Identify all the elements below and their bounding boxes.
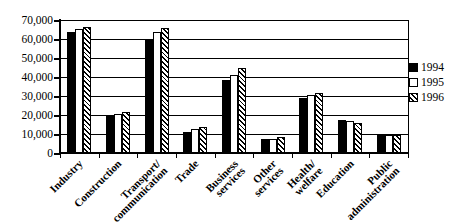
x-axis-tick (176, 154, 177, 158)
legend-label-1996: 1996 (421, 92, 444, 103)
y-axis-tick-label: 30,000 (0, 90, 53, 102)
bar-1995 (75, 29, 83, 153)
x-axis-tick (99, 154, 100, 158)
bar-1995 (385, 135, 393, 153)
bar-1995 (153, 32, 161, 153)
bar-1996 (83, 27, 91, 153)
bar-1996 (238, 68, 246, 153)
x-axis-category-label: Industry (48, 158, 84, 194)
bar-1996 (277, 137, 285, 153)
gridline (60, 39, 408, 40)
bar-1994 (145, 39, 153, 153)
x-axis-tick (331, 154, 332, 158)
x-axis-category-label: Education (314, 158, 355, 199)
y-axis-tick-label: 40,000 (0, 71, 53, 83)
y-axis-line (59, 19, 61, 154)
bar-1994 (338, 120, 346, 153)
bar-1994 (261, 139, 269, 153)
x-axis-category-label: Businessservices (203, 158, 246, 201)
legend-swatch-1994-icon (409, 63, 418, 72)
x-axis-tick (369, 154, 370, 158)
bar-1996 (122, 112, 130, 153)
legend-label-1994: 1994 (421, 62, 444, 73)
x-axis-tick (408, 154, 409, 158)
bar-1995 (307, 95, 315, 153)
bar-1996 (199, 127, 207, 153)
bar-chart: 010,00020,00030,00040,00050,00060,00070,… (0, 0, 460, 222)
y-axis-tick-label: 0 (0, 147, 53, 159)
bar-1994 (67, 32, 75, 153)
bar-1996 (393, 135, 401, 153)
x-axis-tick (137, 154, 138, 158)
bar-1996 (354, 123, 362, 153)
y-axis-tick-label: 50,000 (0, 52, 53, 64)
bar-1994 (299, 98, 307, 153)
legend-label-1995: 1995 (421, 77, 444, 88)
legend-item-1996: 1996 (409, 92, 444, 103)
gridline (60, 58, 408, 59)
bar-1996 (315, 93, 323, 153)
gridline (60, 20, 408, 21)
x-axis-category-label: Trade (174, 158, 201, 185)
x-axis-category-label: Otherservices (245, 158, 285, 198)
legend-swatch-1996-icon (409, 93, 418, 102)
bar-1994 (106, 116, 114, 153)
x-axis-tick (60, 154, 61, 158)
bar-1995 (269, 139, 277, 153)
legend-item-1994: 1994 (409, 62, 444, 73)
bar-1995 (114, 114, 122, 153)
x-axis-tick (215, 154, 216, 158)
y-axis-tick-label: 10,000 (0, 128, 53, 140)
bar-1994 (222, 80, 230, 153)
bar-1995 (346, 121, 354, 153)
y-axis-tick-label: 20,000 (0, 109, 53, 121)
bar-1996 (161, 28, 169, 153)
x-axis-tick (292, 154, 293, 158)
bar-1995 (191, 129, 199, 153)
bar-1994 (377, 135, 385, 153)
bar-1995 (230, 75, 238, 153)
bar-1994 (183, 132, 191, 153)
y-axis-tick-label: 70,000 (0, 14, 53, 26)
legend-swatch-1995-icon (409, 78, 418, 87)
legend-item-1995: 1995 (409, 77, 444, 88)
legend: 1994 1995 1996 (409, 62, 444, 107)
y-axis-tick-label: 60,000 (0, 33, 53, 45)
x-axis-tick (253, 154, 254, 158)
